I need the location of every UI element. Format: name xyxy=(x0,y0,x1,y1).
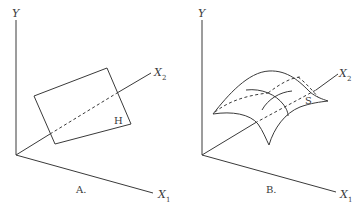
x2-axis-hidden xyxy=(50,93,117,134)
x1-axis-subscript: 1 xyxy=(348,196,352,204)
surface-hidden-contour-3 xyxy=(298,77,318,97)
diagram-canvas: Y X 2 X 1 H A. Y X 2 X 1 S B. xyxy=(0,0,364,218)
x2-axis-subscript: 2 xyxy=(347,75,351,83)
x2-axis-subscript: 2 xyxy=(162,74,166,82)
x2-axis-back xyxy=(117,73,151,93)
x1-axis-subscript: 1 xyxy=(166,196,170,204)
plane-h xyxy=(34,68,131,144)
y-axis-label: Y xyxy=(12,7,21,20)
panel-a-caption: A. xyxy=(75,184,86,195)
panel-b: Y X 2 X 1 S B. xyxy=(198,7,352,204)
surface-curve-2 xyxy=(262,91,292,110)
surface-left-edge xyxy=(213,113,269,145)
x2-axis-front xyxy=(202,123,255,155)
surface-top-edge xyxy=(213,71,328,114)
x2-axis-back xyxy=(316,74,338,90)
y-axis-label: Y xyxy=(198,7,207,20)
surface-right-edge xyxy=(269,101,328,145)
x2-axis-front xyxy=(16,134,50,155)
plane-label: H xyxy=(114,115,123,126)
surface-label: S xyxy=(305,95,312,106)
panel-a: Y X 2 X 1 H A. xyxy=(12,7,170,204)
panel-b-caption: B. xyxy=(266,184,277,195)
